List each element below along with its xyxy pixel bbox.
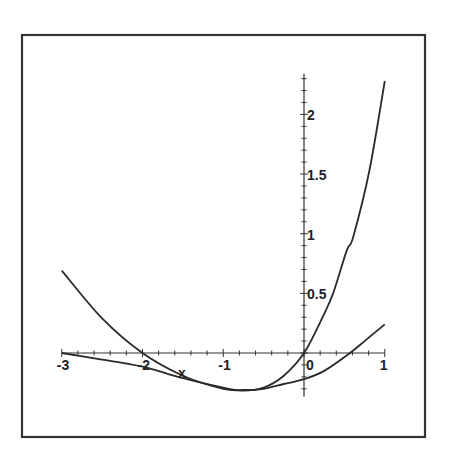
x-tick-label: 0 [306, 357, 314, 373]
tick-labels: -3-2-1010.511.52 [57, 107, 388, 373]
x-tick-label: -3 [57, 357, 70, 373]
y-tick-label: 1 [307, 227, 315, 243]
y-tick-label: 2 [307, 107, 315, 123]
y-tick-label: 1.5 [307, 167, 327, 183]
x-axis-label: x [178, 365, 186, 381]
x-tick-label: -1 [218, 357, 231, 373]
curves [62, 81, 385, 391]
x-tick-label: 1 [380, 357, 388, 373]
axis-ticks [62, 79, 385, 389]
axes [62, 74, 385, 397]
plot-canvas: -3-2-1010.511.52 x [0, 0, 449, 460]
plot-frame [22, 35, 425, 437]
curve-curve-steep [62, 81, 385, 391]
y-tick-label: 0.5 [307, 286, 327, 302]
x-tick-label: -2 [138, 357, 151, 373]
